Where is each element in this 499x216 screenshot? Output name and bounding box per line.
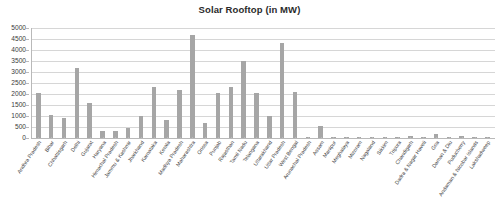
x-axis-slot: Lakshadweep [481, 139, 494, 216]
bar-slot [237, 28, 250, 138]
bar-slot [301, 28, 314, 138]
y-axis-tick-mark [26, 28, 29, 29]
bar-slot [443, 28, 456, 138]
x-axis-tick-mark [64, 137, 65, 139]
bar-slot [378, 28, 391, 138]
x-axis-tick-mark [295, 137, 296, 139]
y-axis-tick-mark [26, 105, 29, 106]
bar-slot [122, 28, 135, 138]
x-axis-tick-mark [346, 137, 347, 139]
x-axis-tick-mark [333, 137, 334, 139]
bar-slot [263, 28, 276, 138]
x-axis-tick-mark [128, 137, 129, 139]
y-axis-tick-mark [26, 61, 29, 62]
x-axis-tick-mark [205, 137, 206, 139]
bar [177, 90, 182, 138]
bar-slot [250, 28, 263, 138]
bar [164, 120, 169, 138]
x-axis-slot: Andhra Pradesh [32, 139, 45, 216]
x-axis-tick-mark [103, 137, 104, 139]
bar [87, 103, 92, 138]
bar-slot [391, 28, 404, 138]
y-axis-tick-label: 3000 [11, 69, 26, 76]
bar-slot [455, 28, 468, 138]
bar-slot [224, 28, 237, 138]
x-axis-tick-mark [90, 137, 91, 139]
x-axis-tick-mark [51, 137, 52, 139]
bar-slot [430, 28, 443, 138]
x-axis-tick-mark [180, 137, 181, 139]
y-axis-tick-label: 4000 [11, 47, 26, 54]
bar-slot [340, 28, 353, 138]
y-axis-tick-mark [26, 116, 29, 117]
y-axis-tick-label: 2000 [11, 91, 26, 98]
bar-slot [481, 28, 494, 138]
y-axis-tick-label: 500 [15, 124, 26, 131]
x-axis-slot: Chhattisgarh [58, 139, 71, 216]
bar-slot [199, 28, 212, 138]
bar-slot [32, 28, 45, 138]
x-axis-tick-mark [256, 137, 257, 139]
x-axis-tick-mark [77, 137, 78, 139]
y-axis-tick-mark [26, 127, 29, 128]
y-axis-tick-mark [26, 94, 29, 95]
bar-slot [45, 28, 58, 138]
y-axis-tick-label: 3500 [11, 58, 26, 65]
bar-slot [70, 28, 83, 138]
x-axis-tick-mark [436, 137, 437, 139]
x-axis-tick-label: Andhra Pradesh [17, 140, 43, 175]
y-axis-tick-label: 1500 [11, 102, 26, 109]
bar-slot [96, 28, 109, 138]
y-axis-tick-mark [26, 83, 29, 84]
bar-slot [289, 28, 302, 138]
x-axis-tick-mark [321, 137, 322, 139]
bar-slot [160, 28, 173, 138]
x-axis-labels: Andhra PradeshBiharChhattisgarhDelhiGuja… [32, 139, 494, 216]
y-axis-tick-label: 1000 [11, 113, 26, 120]
x-axis-tick-mark [231, 137, 232, 139]
x-axis-tick-mark [192, 137, 193, 139]
bar [293, 92, 298, 138]
bar [36, 93, 41, 138]
y-axis-tick-mark [26, 39, 29, 40]
bar-slot [327, 28, 340, 138]
bar-slot [366, 28, 379, 138]
bar-series [32, 28, 494, 138]
x-axis-tick-label: Delhi [70, 140, 81, 153]
bar [254, 93, 259, 138]
bar [62, 118, 67, 138]
chart-title: Solar Rooftop (in MW) [0, 4, 499, 15]
x-axis-tick-mark [359, 137, 360, 139]
bar [241, 61, 246, 138]
x-axis-tick-mark [269, 137, 270, 139]
x-axis-slot: Dadra & Nagar Haveli [417, 139, 430, 216]
x-axis-tick-mark [462, 137, 463, 139]
y-axis: 5000450040003500300025002000150010005000 [0, 28, 29, 138]
x-axis-tick-mark [282, 137, 283, 139]
x-axis-tick-mark [167, 137, 168, 139]
solar-rooftop-bar-chart: Solar Rooftop (in MW) 500045004000350030… [0, 0, 499, 216]
bar [75, 68, 80, 138]
bar-slot [404, 28, 417, 138]
bar-slot [417, 28, 430, 138]
bar-slot [58, 28, 71, 138]
bar-slot [135, 28, 148, 138]
y-axis-tick-mark [26, 50, 29, 51]
bar [139, 116, 144, 138]
y-axis-tick-mark [26, 72, 29, 73]
bar [152, 87, 157, 138]
y-axis-tick-mark [26, 138, 29, 139]
bar [190, 35, 195, 138]
bar-slot [276, 28, 289, 138]
bar [229, 87, 234, 138]
x-axis-tick-mark [308, 137, 309, 139]
bar-slot [468, 28, 481, 138]
y-axis-tick-label: 2500 [11, 80, 26, 87]
x-axis-tick-mark [410, 137, 411, 139]
x-axis-tick-mark [141, 137, 142, 139]
bar [203, 123, 208, 138]
x-axis-tick-mark [115, 137, 116, 139]
bar-slot [83, 28, 96, 138]
bar-slot [147, 28, 160, 138]
y-axis-tick-label: 4500 [11, 36, 26, 43]
